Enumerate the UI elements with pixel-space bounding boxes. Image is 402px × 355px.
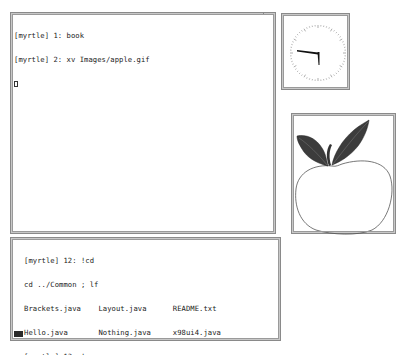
clock-tick bbox=[294, 39, 297, 41]
analog-clock-face bbox=[282, 14, 351, 91]
terminal-input-line[interactable] bbox=[14, 80, 150, 88]
clock-tick bbox=[329, 77, 330, 78]
clock-tick bbox=[340, 39, 343, 41]
clock-tick bbox=[334, 75, 335, 76]
clock-tick bbox=[340, 66, 343, 68]
clock-tick bbox=[297, 34, 298, 35]
clock-tick bbox=[299, 73, 300, 74]
clock-tick bbox=[340, 69, 341, 70]
apple-body-icon bbox=[296, 161, 392, 234]
clock-tick bbox=[336, 73, 337, 74]
clock-tick bbox=[307, 77, 308, 78]
clock-tick bbox=[302, 30, 303, 31]
clock-tick bbox=[304, 75, 306, 78]
terminal-line: Brackets.java Layout.java README.txt bbox=[24, 305, 221, 313]
clock-window[interactable] bbox=[281, 13, 350, 90]
clock-tick bbox=[334, 30, 335, 31]
terminal-line: [myrtle] 12: !cd bbox=[24, 257, 221, 265]
clock-tick bbox=[295, 69, 296, 70]
terminal-line: [myrtle] 1: book bbox=[14, 32, 150, 40]
clock-tick bbox=[294, 66, 297, 68]
clock-tick bbox=[338, 71, 339, 72]
clock-tick bbox=[307, 27, 308, 28]
clock-tick bbox=[338, 34, 339, 35]
clock-tick bbox=[295, 37, 296, 38]
clock-tick bbox=[342, 64, 343, 65]
apple-image bbox=[292, 114, 397, 235]
hour-hand-icon bbox=[297, 50, 318, 55]
terminal-line: cd ../Common ; lf bbox=[24, 281, 221, 289]
terminal-line: [myrtle] 2: xv Images/apple.gif bbox=[14, 56, 150, 64]
clock-tick bbox=[331, 75, 333, 78]
terminal-output[interactable]: [myrtle] 12: !cd cd ../Common ; lf Brack… bbox=[24, 241, 221, 355]
scrollbar-thumb[interactable] bbox=[14, 331, 23, 337]
text-cursor bbox=[14, 81, 18, 87]
image-viewer-window[interactable] bbox=[291, 113, 396, 234]
terminal-line: Hello.java Nothing.java x98ui4.java bbox=[24, 329, 221, 337]
clock-tick bbox=[302, 75, 303, 76]
clock-tick bbox=[292, 42, 293, 43]
clock-tick bbox=[297, 71, 298, 72]
clock-tick bbox=[342, 42, 343, 43]
apple-stem-icon bbox=[327, 144, 332, 166]
clock-tick bbox=[336, 32, 337, 33]
bottom-terminal-window[interactable]: [myrtle] 12: !cd cd ../Common ; lf Brack… bbox=[10, 237, 281, 341]
clock-tick bbox=[340, 37, 341, 38]
clock-tick bbox=[292, 64, 293, 65]
top-terminal-window[interactable]: [myrtle] 1: book [myrtle] 2: xv Images/a… bbox=[10, 12, 276, 234]
terminal-output[interactable]: [myrtle] 1: book [myrtle] 2: xv Images/a… bbox=[14, 16, 150, 104]
clock-tick bbox=[329, 27, 330, 28]
clock-tick bbox=[331, 29, 333, 32]
minute-hand-icon bbox=[318, 52, 320, 65]
clock-tick bbox=[299, 32, 300, 33]
clock-tick bbox=[304, 29, 306, 32]
window-notch bbox=[263, 12, 264, 15]
